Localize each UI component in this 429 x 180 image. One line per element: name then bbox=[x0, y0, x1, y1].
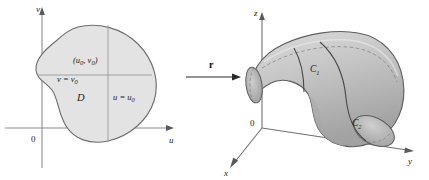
parametric-surface bbox=[244, 31, 404, 152]
region-d-shape bbox=[36, 25, 156, 142]
x-axis bbox=[230, 128, 262, 168]
surface-parametrization-figure: (u0, v0) v = v0 D u = u0 v u 0 r bbox=[0, 0, 429, 180]
xyz-origin-label: 0 bbox=[250, 118, 255, 128]
point-u0-v0-label: (u0, v0) bbox=[73, 55, 98, 66]
uv-origin-label: 0 bbox=[31, 134, 36, 144]
v-axis-label: v bbox=[36, 4, 40, 14]
r-vector-label: r bbox=[209, 59, 214, 70]
x-axis-label: x bbox=[223, 168, 228, 178]
region-d-label: D bbox=[76, 92, 85, 103]
xyz-space-panel: C1 C2 z y x 0 bbox=[224, 0, 429, 180]
y-axis-label: y bbox=[407, 156, 412, 166]
u-axis-label: u bbox=[169, 135, 174, 145]
v-axis bbox=[39, 7, 45, 168]
z-axis-label: z bbox=[253, 8, 258, 18]
uv-plane-panel: (u0, v0) v = v0 D u = u0 v u 0 bbox=[0, 0, 200, 180]
